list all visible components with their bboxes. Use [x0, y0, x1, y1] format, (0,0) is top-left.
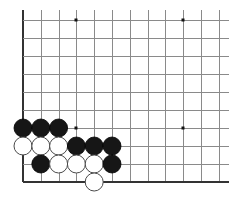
black-stone[interactable] [32, 155, 50, 173]
black-stone[interactable] [67, 137, 85, 155]
black-stone[interactable] [14, 119, 32, 137]
white-stone[interactable] [85, 173, 103, 191]
white-stone[interactable] [14, 137, 32, 155]
white-stone[interactable] [50, 137, 68, 155]
star-point-icon [75, 127, 78, 130]
white-stone[interactable] [67, 155, 85, 173]
star-point-icon [182, 127, 185, 130]
white-stone[interactable] [85, 155, 103, 173]
white-stone[interactable] [50, 155, 68, 173]
stones-layer [14, 119, 121, 191]
black-stone[interactable] [32, 119, 50, 137]
black-stone[interactable] [50, 119, 68, 137]
black-stone[interactable] [85, 137, 103, 155]
white-stone[interactable] [32, 137, 50, 155]
black-stone[interactable] [103, 155, 121, 173]
star-point-icon [182, 19, 185, 22]
black-stone[interactable] [103, 137, 121, 155]
go-board[interactable] [0, 0, 248, 198]
star-point-icon [75, 19, 78, 22]
